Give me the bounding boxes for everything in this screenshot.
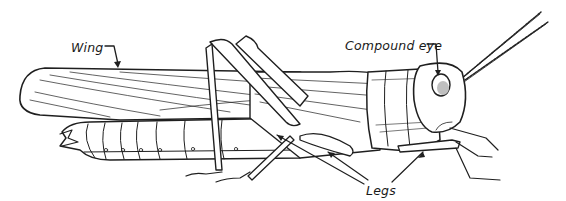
antennae — [460, 12, 548, 82]
wing-label: Wing — [71, 40, 104, 55]
grasshopper-illustration — [0, 0, 566, 201]
legs-label: Legs — [366, 183, 396, 198]
grasshopper-diagram: Wing Compound eye Legs — [0, 0, 566, 201]
head — [414, 63, 466, 132]
compound-eye-label: Compound eye — [345, 38, 442, 53]
